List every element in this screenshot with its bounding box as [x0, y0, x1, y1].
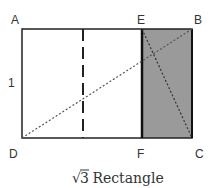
caption: √ 3 Rectangle: [72, 170, 164, 186]
caption-text: Rectangle: [88, 170, 164, 186]
point-label-C: C: [195, 147, 204, 161]
point-label-E: E: [137, 13, 145, 27]
point-label-A: A: [11, 13, 19, 27]
side-length-label: 1: [8, 76, 15, 90]
sqrt3-rectangle-diagram: A E B D F C 1 √ 3 Rectangle: [0, 0, 219, 188]
point-label-F: F: [137, 147, 144, 161]
point-label-B: B: [194, 13, 202, 27]
point-label-D: D: [9, 147, 18, 161]
